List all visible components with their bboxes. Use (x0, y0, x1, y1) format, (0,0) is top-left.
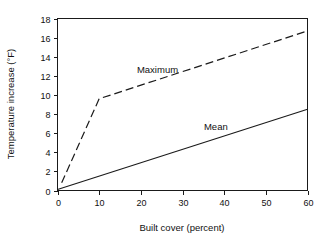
x-tick-label: 60 (303, 198, 313, 208)
series-annotation-maximum: Maximum (137, 64, 178, 75)
x-tick-label: 10 (94, 198, 104, 208)
y-tick-label: 18 (40, 15, 50, 25)
x-tick-label: 0 (56, 198, 61, 208)
x-tick-label: 20 (136, 198, 146, 208)
y-tick-label: 12 (40, 72, 50, 82)
x-tick-label: 40 (219, 198, 229, 208)
series-annotation-mean: Mean (204, 121, 228, 132)
series-line-mean (58, 109, 308, 189)
x-tick-label: 50 (261, 198, 271, 208)
y-tick-label: 0 (45, 187, 50, 197)
y-tick-label: 14 (40, 53, 50, 63)
y-axis-title: Temperature increase (°F) (5, 49, 16, 159)
x-axis-title: Built cover (percent) (139, 222, 224, 233)
y-axis-tick-labels: 024681012141618 (40, 15, 50, 197)
x-tick-label: 30 (178, 198, 188, 208)
x-axis-tick-labels: 0102030405060 (56, 198, 314, 208)
y-tick-label: 10 (40, 91, 50, 101)
x-axis-ticks (59, 191, 309, 195)
y-axis-ticks (54, 20, 58, 192)
chart-figure: 024681012141618 0102030405060 Maximum Me… (0, 0, 321, 238)
y-tick-label: 6 (45, 129, 50, 139)
data-series-group (58, 31, 308, 190)
y-tick-label: 8 (45, 110, 50, 120)
series-line-maximum (62, 31, 308, 183)
y-tick-label: 4 (45, 148, 50, 158)
plot-frame (58, 19, 308, 191)
y-tick-label: 16 (40, 34, 50, 44)
y-tick-label: 2 (45, 167, 50, 177)
line-chart: 024681012141618 0102030405060 Maximum Me… (0, 0, 321, 238)
